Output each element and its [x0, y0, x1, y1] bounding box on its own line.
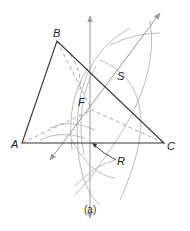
triangle-ABC	[22, 41, 164, 143]
arc-bl	[40, 134, 85, 140]
point-label-s: S	[117, 71, 124, 82]
geometry-construction-diagram	[0, 0, 190, 231]
arc-left-1	[71, 68, 88, 150]
point-label-r: R	[117, 156, 125, 167]
figure-caption: (a)	[84, 205, 96, 215]
dashed-bisectors	[22, 41, 164, 143]
construction-arcs	[40, 20, 160, 205]
arc-lens-right	[75, 20, 152, 195]
vertex-label-c: C	[167, 141, 175, 152]
bisector-from-C	[92, 110, 164, 143]
arc-lens-left	[77, 28, 130, 205]
arc-top-cross	[110, 33, 160, 45]
point-label-f: F	[78, 97, 85, 108]
vertex-label-a: A	[11, 139, 18, 150]
arc-bottom-low	[75, 160, 115, 186]
vertex-label-b: B	[53, 28, 60, 39]
arc-bottom-cross	[72, 140, 115, 178]
